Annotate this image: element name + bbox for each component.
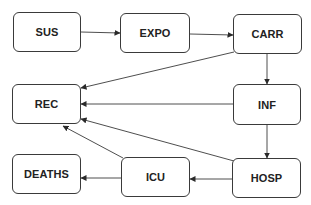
- node-carr: CARR: [233, 14, 302, 54]
- node-label: CARR: [251, 28, 283, 40]
- arrow-hosp-to-rec: [81, 119, 234, 161]
- node-sus: SUS: [13, 12, 81, 52]
- node-label: SUS: [36, 26, 59, 38]
- arrow-sus-to-expo: [81, 32, 120, 33]
- node-label: DEATHS: [24, 168, 69, 180]
- arrow-carr-to-rec: [81, 52, 234, 88]
- node-deaths: DEATHS: [12, 154, 81, 194]
- node-hosp: HOSP: [232, 158, 301, 198]
- node-label: HOSP: [251, 172, 283, 184]
- node-expo: EXPO: [120, 13, 190, 53]
- flow-diagram: SUS EXPO CARR REC INF DEATHS ICU HOSP: [0, 0, 311, 205]
- node-label: ICU: [146, 171, 165, 183]
- node-label: INF: [258, 99, 276, 111]
- node-rec: REC: [12, 84, 81, 124]
- node-inf: INF: [233, 84, 301, 125]
- node-icu: ICU: [121, 157, 190, 197]
- node-label: EXPO: [140, 27, 171, 39]
- node-label: REC: [35, 98, 59, 110]
- arrow-expo-to-carr: [190, 34, 233, 35]
